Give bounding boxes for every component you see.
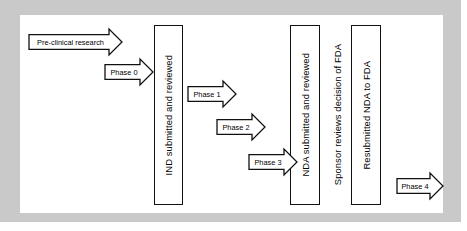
flowchart-canvas: IND submitted and reviewedNDA submitted … [20, 15, 443, 213]
flow-arrow-phase-2: Phase 2 [216, 113, 266, 141]
slide-frame: IND submitted and reviewedNDA submitted … [0, 0, 461, 222]
arrow-shape-icon [187, 80, 237, 108]
process-step-nda-submitted-and-reviewed: NDA submitted and reviewed [290, 25, 320, 205]
flow-arrow-phase-0: Phase 0 [104, 58, 154, 86]
arrow-shape-icon [216, 113, 266, 141]
process-step-sponsor-reviews-decision-of-fda: Sponsor reviews decision of FDA [326, 25, 348, 205]
process-step-ind-submitted-and-reviewed: IND submitted and reviewed [154, 25, 183, 205]
process-step-label: Resubmitted NDA to FDA [361, 61, 372, 170]
flow-arrow-phase-3: Phase 3 [248, 148, 298, 176]
arrow-shape-icon [248, 148, 298, 176]
arrow-shape-icon [104, 58, 154, 86]
flow-arrow-pre-clinical-research: Pre-clinical research [28, 28, 123, 56]
slide-canvas: IND submitted and reviewedNDA submitted … [20, 15, 443, 213]
process-step-label: NDA submitted and reviewed [300, 53, 311, 177]
arrow-shape-icon [28, 28, 123, 56]
process-step-resubmitted-nda-to-fda: Resubmitted NDA to FDA [351, 25, 381, 205]
flow-arrow-phase-1: Phase 1 [187, 80, 237, 108]
process-step-label: IND submitted and reviewed [163, 55, 174, 175]
arrow-shape-icon [396, 172, 444, 200]
flow-arrow-phase-4: Phase 4 [396, 172, 444, 200]
process-step-label: Sponsor reviews decision of FDA [332, 44, 343, 185]
